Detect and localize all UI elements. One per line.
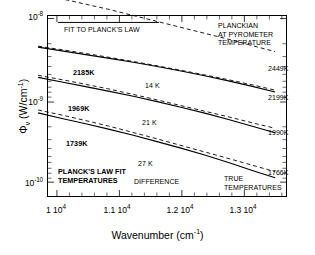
x-tick-exponent: 4 — [127, 203, 131, 210]
annotation-difference-caption: DIFFERENCE — [134, 178, 179, 187]
x-tick-exponent: 4 — [63, 203, 67, 210]
truecap-line-1: TRUE — [224, 175, 282, 184]
annotation-difference-27K: 27 K — [138, 160, 153, 169]
y-tick-mantissa: 10 — [25, 178, 34, 188]
truecap-line-2: TEMPERATURES — [224, 184, 282, 193]
annotation-true-temp-2199K: 2199K — [268, 94, 289, 103]
y-tick-label-1e-8: 10-8 — [7, 10, 43, 22]
x-tick-mantissa: 1 10 — [46, 205, 63, 215]
y-axis-title-unit-exponent: -1 — [17, 82, 24, 88]
planckian-line-1: PLANCKIAN — [218, 22, 273, 31]
annotation-plancks-law-fit-temperatures: PLANCK'S LAW FIT TEMPERATURES — [58, 168, 126, 185]
y-tick-exponent: -8 — [38, 10, 43, 17]
y-axis-title-symbol: Φ — [17, 125, 29, 133]
y-axis-title-unit: (W/cm — [17, 89, 29, 122]
x-tick-label-12000: 1.2 104 — [148, 203, 212, 215]
annotation-difference-14K: 14 K — [145, 82, 160, 91]
y-axis-title-subscript: v — [24, 122, 31, 126]
annotation-fit-to-plancks-law: FIT TO PLANCK'S LAW — [64, 26, 140, 35]
y-tick-exponent: -10 — [34, 176, 43, 183]
planckian-line-3: TEMPERATURE — [218, 39, 273, 48]
annotation-fit-temp-2185K: 2185K — [73, 69, 94, 78]
y-tick-mantissa: 10 — [28, 12, 37, 22]
x-axis-title-text: Wavenumber (cm — [111, 229, 193, 241]
y-axis-title: Φv (W/cm-1) — [17, 36, 32, 176]
y-axis-title-paren: ) — [17, 79, 29, 83]
y-tick-exponent: -9 — [38, 95, 43, 102]
x-tick-label-13000: 1.3 104 — [211, 203, 275, 215]
annotation-true-temp-2449K: 2449K — [268, 65, 289, 74]
figure-canvas: 10-8 10-9 10-10 1 104 1.1 104 1.2 104 1.… — [0, 0, 315, 255]
x-tick-exponent: 4 — [190, 203, 194, 210]
x-axis-title: Wavenumber (cm-1) — [0, 228, 315, 241]
x-tick-mantissa: 1.2 10 — [166, 205, 190, 215]
annotation-difference-21K: 21 K — [142, 119, 157, 128]
x-axis-title-paren: ) — [200, 229, 204, 241]
x-tick-label-11000: 1.1 104 — [85, 203, 149, 215]
planckian-line-2: AT PYROMETER — [218, 31, 273, 40]
y-tick-label-1e-10: 10-10 — [3, 176, 43, 188]
x-tick-label-10000: 1 104 — [24, 203, 88, 215]
x-tick-exponent: 4 — [253, 203, 257, 210]
annotation-true-temp-1990K: 1990K — [268, 129, 289, 138]
x-tick-mantissa: 1.1 10 — [103, 205, 127, 215]
x-tick-mantissa: 1.3 10 — [229, 205, 253, 215]
fitcap-line-2: TEMPERATURES — [58, 177, 126, 186]
annotation-fit-temp-1739K: 1739K — [66, 140, 87, 149]
annotation-planckian-at-pyrometer: PLANCKIAN AT PYROMETER TEMPERATURE — [218, 22, 273, 48]
annotation-true-temperatures-caption: TRUE TEMPERATURES — [224, 175, 282, 192]
annotation-fit-temp-1969K: 1969K — [68, 105, 89, 114]
